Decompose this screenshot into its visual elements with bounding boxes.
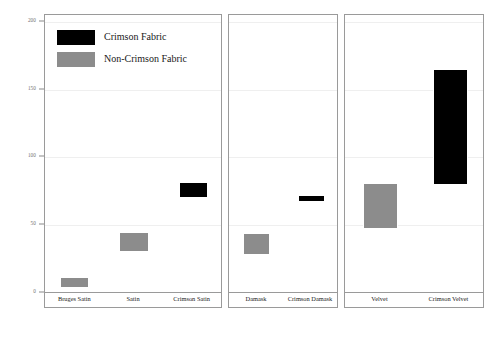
x-axis-label-crimson-velvet: Crimson Velvet [414, 296, 483, 302]
bar-damask [243, 233, 271, 255]
legend-swatch-noncrimson [57, 52, 95, 67]
gridline [229, 90, 337, 91]
gridline [45, 225, 221, 226]
y-axis-tick-label: 0 [33, 289, 36, 294]
legend-item-noncrimson: Non-Crimson Fabric [57, 48, 247, 70]
legend-swatch-crimson [57, 30, 95, 45]
y-axis-tick-label: 50 [31, 222, 36, 227]
panel-category-strip: DamaskCrimson Damask [229, 292, 337, 307]
x-axis-label-bruges-satin: Bruges Satin [45, 296, 104, 302]
bar-crimson-velvet [433, 69, 468, 184]
gridline [45, 90, 221, 91]
panel-category-strip: VelvetCrimson Velvet [345, 292, 483, 307]
gridline [229, 22, 337, 23]
gridline [229, 225, 337, 226]
x-axis-label-damask: Damask [229, 296, 283, 302]
panel-plot-area [345, 15, 483, 293]
gridline [345, 22, 483, 23]
chart-root: 050100150200 Bruges SatinSatinCrimson Sa… [0, 0, 491, 344]
bar-satin [119, 232, 149, 252]
gridline [45, 22, 221, 23]
gridline [229, 157, 337, 158]
y-axis: 050100150200 [0, 0, 44, 344]
y-axis-tick-label: 100 [28, 154, 36, 159]
chart-legend: Crimson FabricNon-Crimson Fabric [57, 26, 247, 70]
x-axis-label-velvet: Velvet [345, 296, 414, 302]
x-axis-label-satin: Satin [104, 296, 163, 302]
x-axis-label-crimson-satin: Crimson Satin [162, 296, 221, 302]
legend-item-crimson: Crimson Fabric [57, 26, 247, 48]
gridline [45, 157, 221, 158]
bar-crimson-satin [179, 182, 209, 198]
bar-crimson-damask [298, 195, 326, 202]
y-axis-tick-label: 200 [28, 18, 36, 23]
bar-velvet [363, 183, 398, 229]
legend-label-noncrimson: Non-Crimson Fabric [104, 54, 187, 64]
panel-category-strip: Bruges SatinSatinCrimson Satin [45, 292, 221, 307]
y-axis-tick-label: 150 [28, 86, 36, 91]
legend-label-crimson: Crimson Fabric [104, 32, 167, 42]
x-axis-label-crimson-damask: Crimson Damask [283, 296, 337, 302]
bar-bruges-satin [60, 277, 90, 288]
chart-panel-velvet-panel: VelvetCrimson Velvet [344, 14, 484, 308]
